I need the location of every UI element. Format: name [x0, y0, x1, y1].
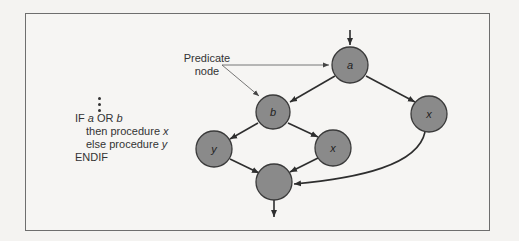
edge-b-x — [288, 123, 318, 137]
flow-graph: a b y x x — [0, 0, 519, 241]
edge-a-x — [366, 76, 415, 102]
edge-a-b — [290, 76, 335, 102]
edge-x-join — [290, 158, 318, 172]
edge-b-y — [230, 123, 258, 139]
node-x-right-label: x — [425, 108, 432, 120]
node-x-middle-label: x — [329, 142, 336, 154]
edge-xright-join — [294, 132, 425, 184]
edge-y-join — [230, 159, 259, 173]
node-join — [256, 164, 292, 200]
annotation-pointers — [222, 65, 329, 96]
node-a-label: a — [347, 59, 353, 71]
node-b-label: b — [270, 106, 276, 118]
